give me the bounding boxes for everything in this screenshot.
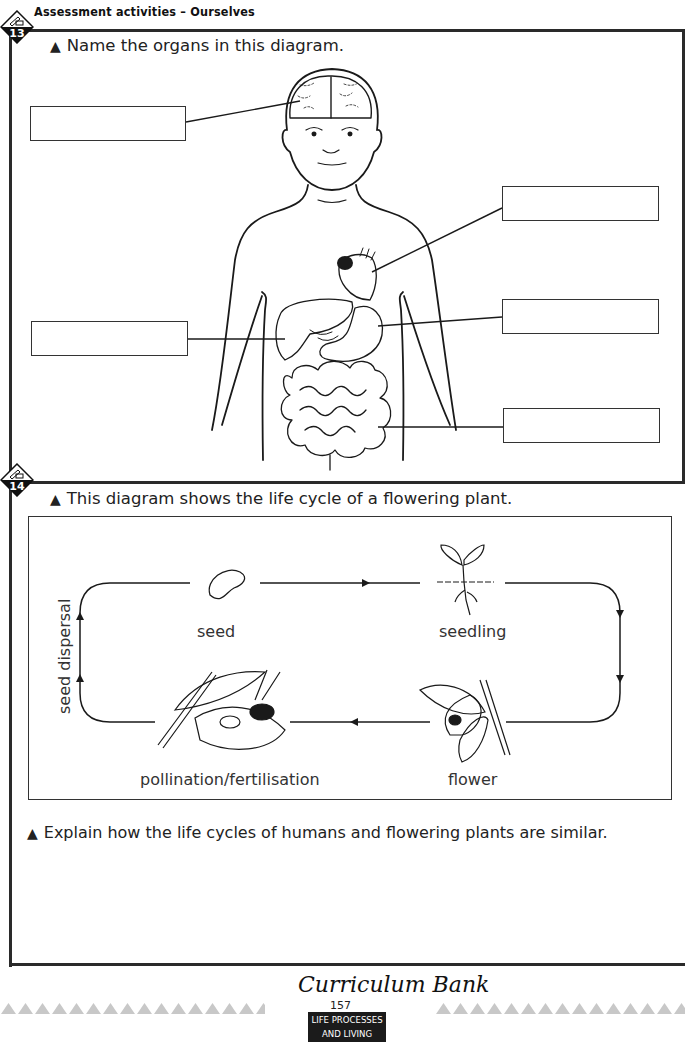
stage-label-seedling: seedling (439, 622, 506, 641)
triangle-pattern-icon (0, 1001, 265, 1015)
footer-triangles-left (0, 1000, 265, 1014)
curriculum-bank-logo: Curriculum Bank (298, 972, 489, 997)
seed-icon (209, 570, 244, 598)
side-label-seed-dispersal: seed dispersal (55, 599, 74, 714)
seedling-icon (437, 545, 494, 615)
frame-bottom-rule (9, 963, 685, 966)
page-number: 157 (330, 999, 351, 1012)
answer-area[interactable] (27, 850, 667, 958)
stage-label-flower: flower (448, 770, 497, 789)
footer-triangles-right (435, 1000, 685, 1014)
bullet-triangle-icon: ▲ (27, 825, 38, 841)
flower-icon (420, 680, 510, 762)
subject-tag: LIFE PROCESSES AND LIVING THINGS (308, 1012, 386, 1042)
stage-label-pollination: pollination/fertilisation (140, 770, 320, 789)
stage-label-seed: seed (197, 622, 235, 641)
pollination-bee-icon (158, 670, 285, 749)
triangle-pattern-icon (435, 1001, 685, 1015)
section14-question: ▲Explain how the life cycles of humans a… (27, 823, 608, 842)
life-cycle-arrows (0, 0, 685, 820)
